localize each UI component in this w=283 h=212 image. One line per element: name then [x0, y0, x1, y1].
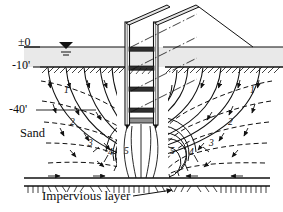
elevation-label-minus-forty: -40' — [9, 103, 27, 115]
equipotential-number-right-4: 4 — [189, 148, 194, 158]
ground-hatch-right — [166, 67, 280, 73]
impervious-layer-label: Impervious layer — [42, 189, 130, 202]
flow-arrows-left — [49, 80, 110, 167]
equipotential-number-left-4: 4 — [108, 148, 113, 158]
seepage-fan-inside — [124, 124, 158, 178]
equipotential-number-left-5: 5 — [124, 147, 129, 157]
equipotential-number-right-1: 1 — [250, 86, 255, 96]
pile-tip-right — [154, 125, 159, 129]
equipotential-number-right-3: 3 — [209, 139, 214, 149]
flow-line-l2 — [66, 67, 123, 147]
perspective-top-members — [126, 5, 199, 25]
soil-label-sand: Sand — [20, 127, 45, 140]
equipotential-r1 — [166, 81, 272, 129]
flow-line-r2 — [158, 67, 240, 148]
figure-canvas: ±0 -10' -40' Sand Impervious layer 1 2 3… — [0, 0, 283, 212]
equipotential-number-left-1: 1 — [64, 86, 69, 96]
perspective-edge-line — [199, 7, 253, 47]
equipotential-number-left-2: 2 — [70, 118, 75, 128]
water-band-inner — [168, 47, 283, 67]
flow-net-right — [146, 67, 272, 179]
equipotential-number-right-5: 5 — [170, 147, 175, 157]
flow-line-l1 — [48, 67, 120, 154]
excavation-bottom — [128, 118, 154, 123]
flow-net-drawing — [0, 0, 283, 212]
pile-tip-left — [125, 125, 130, 129]
elevation-label-minus-ten: -10' — [12, 59, 30, 71]
equipotential-number-right-2: 2 — [228, 118, 233, 128]
flow-line-r3 — [155, 67, 221, 140]
equipotential-number-left-3: 3 — [88, 139, 93, 149]
elevation-label-zero: ±0 — [18, 36, 31, 48]
